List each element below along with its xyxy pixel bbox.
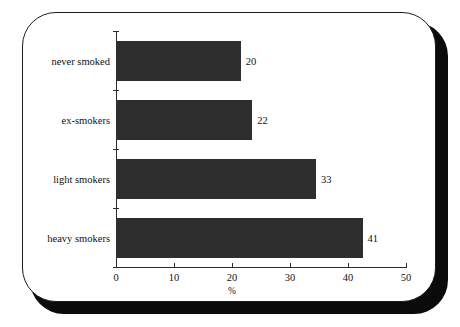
value-label: 33: [321, 173, 332, 184]
bar-chart: never smokedex-smokerslight smokersheavy…: [0, 0, 460, 327]
category-label: light smokers: [53, 173, 110, 184]
x-axis-line: [116, 267, 407, 268]
y-tick-mark: [113, 90, 119, 91]
y-tick-mark: [113, 208, 119, 209]
bar: [116, 41, 241, 81]
category-label: ex-smokers: [62, 114, 110, 125]
x-tick-label: 10: [169, 272, 180, 283]
bar: [116, 159, 316, 199]
x-tick-mark: [174, 263, 175, 268]
x-tick-mark: [348, 263, 349, 268]
y-tick-mark: [113, 31, 119, 32]
category-label: never smoked: [51, 55, 110, 66]
bar: [116, 100, 252, 140]
value-label: 20: [246, 55, 257, 66]
x-tick-mark: [232, 263, 233, 268]
x-tick-label: 20: [227, 272, 238, 283]
y-tick-mark: [113, 267, 119, 268]
x-tick-label: 30: [285, 272, 296, 283]
x-tick-label: 0: [113, 272, 118, 283]
x-tick-mark: [290, 263, 291, 268]
x-tick-label: 40: [343, 272, 354, 283]
bar: [116, 218, 363, 258]
value-label: 41: [368, 232, 379, 243]
category-label: heavy smokers: [47, 232, 110, 243]
x-tick-label: 50: [401, 272, 412, 283]
x-axis-title: %: [228, 286, 236, 296]
value-label: 22: [257, 114, 268, 125]
y-tick-mark: [113, 149, 119, 150]
x-tick-mark: [406, 263, 407, 268]
